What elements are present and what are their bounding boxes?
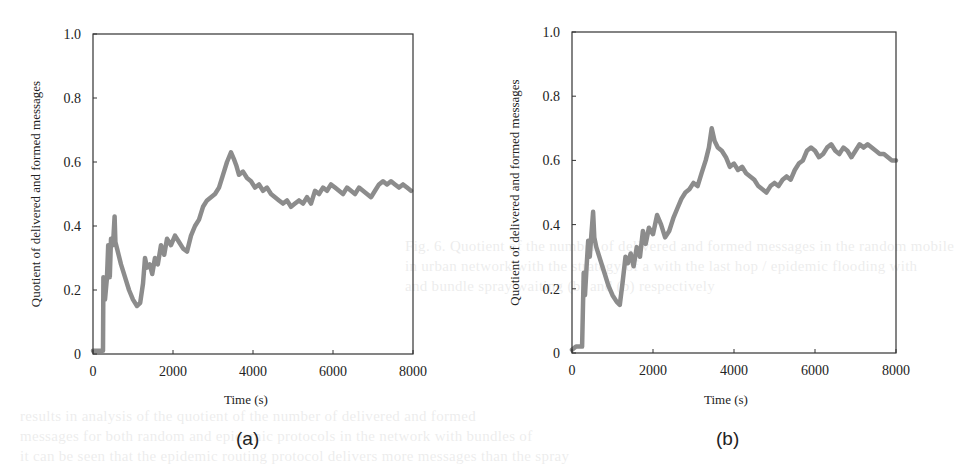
y-tick-label: 0.8: [543, 89, 561, 104]
y-tick-label: 0: [74, 347, 81, 362]
x-tick-label: 2000: [159, 364, 187, 379]
x-tick-label: 2000: [639, 363, 667, 378]
y-tick-label: 0.2: [64, 283, 82, 298]
panel-caption-b: (b): [716, 428, 739, 450]
y-tick-label: 0.6: [64, 155, 82, 170]
x-tick-label: 0: [90, 364, 97, 379]
x-axis-title-b: Time (s): [704, 392, 748, 408]
x-tick-label: 8000: [399, 364, 427, 379]
x-tick-label: 0: [569, 363, 576, 378]
x-axis-title-a: Time (s): [224, 392, 268, 408]
data-series-line: [93, 152, 411, 350]
x-tick-label: 8000: [882, 363, 910, 378]
y-tick-label: 0.4: [64, 219, 82, 234]
y-axis-title: Quotient of delivered and formed message…: [507, 79, 522, 305]
y-tick-label: 0.8: [64, 91, 82, 106]
y-tick-label: 0.6: [543, 153, 561, 168]
y-tick-label: 0.4: [543, 218, 561, 233]
y-tick-label: 0.2: [543, 282, 561, 297]
x-tick-label: 4000: [720, 363, 748, 378]
panel-caption-a: (a): [236, 428, 259, 450]
y-tick-label: 0: [553, 346, 560, 361]
data-series-line: [572, 128, 896, 349]
x-tick-label: 4000: [239, 364, 267, 379]
y-tick-label: 1.0: [64, 27, 82, 42]
y-axis-title: Quotient of delivered and formed message…: [28, 81, 43, 307]
x-tick-label: 6000: [801, 363, 829, 378]
x-tick-label: 6000: [319, 364, 347, 379]
y-tick-label: 1.0: [543, 25, 561, 40]
chart-panel-b: 00.20.40.60.81.002000400060008000Quotien…: [471, 0, 942, 473]
chart-panel-a: 00.20.40.60.81.002000400060008000Quotien…: [0, 0, 471, 473]
